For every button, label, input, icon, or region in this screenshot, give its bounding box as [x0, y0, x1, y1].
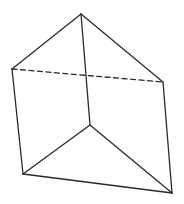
edge-BD: [12, 69, 23, 174]
edge-AE: [81, 14, 90, 125]
edge-EF: [90, 125, 172, 193]
edge-DE: [23, 125, 90, 174]
prism-diagram: [0, 0, 184, 204]
edge-AB: [12, 14, 81, 69]
edge-BC-hidden: [12, 69, 163, 82]
edge-DF: [23, 174, 172, 193]
edge-CF: [163, 82, 172, 193]
edge-AC: [81, 14, 163, 82]
